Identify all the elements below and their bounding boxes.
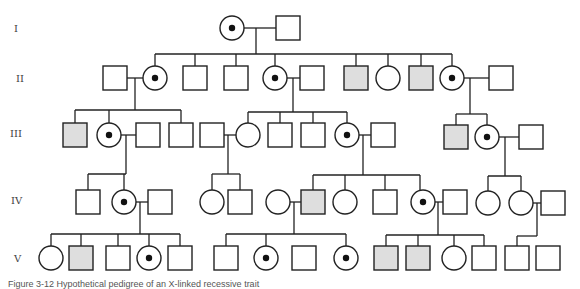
male-square-icon <box>443 190 467 214</box>
individual-V-4 <box>137 246 161 270</box>
individual-III-6 <box>301 123 325 147</box>
individual-IV-b <box>266 190 290 214</box>
individual-III-a <box>136 123 160 147</box>
male-square-icon <box>541 191 565 215</box>
carrier-dot-icon <box>343 255 349 261</box>
male-square-icon <box>169 123 193 147</box>
individual-V-13 <box>472 246 496 270</box>
male-square-icon <box>214 246 238 270</box>
individual-V-7 <box>254 246 278 270</box>
female-circle-icon <box>200 190 224 214</box>
male-square-icon <box>228 190 252 214</box>
carrier-dot-icon <box>344 132 350 138</box>
individual-III-2 <box>97 123 121 147</box>
male-square-icon <box>224 66 248 90</box>
carrier-dot-icon <box>121 199 127 205</box>
male-square-icon <box>292 246 316 270</box>
carrier-dot-icon <box>263 255 269 261</box>
female-circle-icon <box>39 246 63 270</box>
male-square-icon <box>148 190 172 214</box>
individual-I-1 <box>220 16 244 40</box>
generation-label-III: III <box>10 128 22 139</box>
individual-V-11 <box>406 246 430 270</box>
male-square-icon <box>472 246 496 270</box>
individual-II-2 <box>183 66 207 90</box>
individual-III-8 <box>444 125 468 149</box>
male-square-icon <box>373 190 397 214</box>
individual-IV-8 <box>411 190 435 214</box>
affected-male-square-icon <box>301 190 325 214</box>
individual-II-c <box>489 66 513 90</box>
male-square-icon <box>300 66 324 90</box>
individual-IV-5 <box>301 190 325 214</box>
individual-V-10 <box>374 246 398 270</box>
generation-label-V: V <box>13 253 22 264</box>
female-circle-icon <box>333 190 357 214</box>
individual-IV-4 <box>228 190 252 214</box>
individual-V-1 <box>39 246 63 270</box>
carrier-dot-icon <box>152 75 158 81</box>
carrier-dot-icon <box>449 75 455 81</box>
male-square-icon <box>268 123 292 147</box>
individual-IV-1 <box>76 190 100 214</box>
female-circle-icon <box>236 123 260 147</box>
male-square-icon <box>276 16 300 40</box>
individual-IV-6 <box>333 190 357 214</box>
male-square-icon <box>183 66 207 90</box>
individual-II-a <box>103 66 127 90</box>
individual-III-c <box>371 123 395 147</box>
individual-IV-7 <box>373 190 397 214</box>
individual-IV-a <box>148 190 172 214</box>
generation-labels: I II III IV V <box>10 23 24 264</box>
individual-V-15 <box>536 246 560 270</box>
individual-III-3 <box>169 123 193 147</box>
individual-IV-d <box>541 191 565 215</box>
male-square-icon <box>136 123 160 147</box>
individual-I-2 <box>276 16 300 40</box>
individual-II-4 <box>263 66 287 90</box>
individual-IV-9 <box>476 191 500 215</box>
individual-II-6 <box>376 66 400 90</box>
individual-III-4 <box>236 123 260 147</box>
male-square-icon <box>76 190 100 214</box>
individual-II-8 <box>440 66 464 90</box>
female-circle-icon <box>509 191 533 215</box>
individual-II-3 <box>224 66 248 90</box>
individual-III-b <box>200 123 224 147</box>
individual-V-12 <box>442 246 466 270</box>
male-square-icon <box>519 125 543 149</box>
individual-V-2 <box>69 246 93 270</box>
affected-male-square-icon <box>344 66 368 90</box>
affected-male-square-icon <box>406 246 430 270</box>
individual-V-6 <box>214 246 238 270</box>
individual-III-9 <box>475 125 499 149</box>
affected-male-square-icon <box>444 125 468 149</box>
male-square-icon <box>301 123 325 147</box>
affected-male-square-icon <box>69 246 93 270</box>
carrier-dot-icon <box>272 75 278 81</box>
individual-III-1 <box>63 123 87 147</box>
individual-V-9 <box>334 246 358 270</box>
male-square-icon <box>168 246 192 270</box>
male-square-icon <box>103 66 127 90</box>
generation-label-I: I <box>14 23 18 34</box>
individual-III-d <box>519 125 543 149</box>
individual-V-8 <box>292 246 316 270</box>
carrier-dot-icon <box>146 255 152 261</box>
female-circle-icon <box>376 66 400 90</box>
male-square-icon <box>371 123 395 147</box>
individual-IV-c <box>443 190 467 214</box>
figure-caption: Figure 3-12 Hypothetical pedigree of an … <box>8 279 259 289</box>
carrier-dot-icon <box>484 134 490 140</box>
carrier-dot-icon <box>106 132 112 138</box>
affected-male-square-icon <box>409 66 433 90</box>
male-square-icon <box>489 66 513 90</box>
male-square-icon <box>200 123 224 147</box>
individual-V-14 <box>505 246 529 270</box>
generation-label-II: II <box>16 73 24 84</box>
male-square-icon <box>505 246 529 270</box>
individual-V-5 <box>168 246 192 270</box>
affected-male-square-icon <box>374 246 398 270</box>
individual-IV-3 <box>200 190 224 214</box>
